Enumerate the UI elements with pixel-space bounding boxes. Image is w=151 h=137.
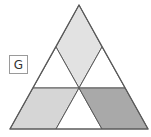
figure-label: G [14,58,23,72]
figure-label-box: G [9,55,28,74]
triangle-figure: G [0,0,151,137]
